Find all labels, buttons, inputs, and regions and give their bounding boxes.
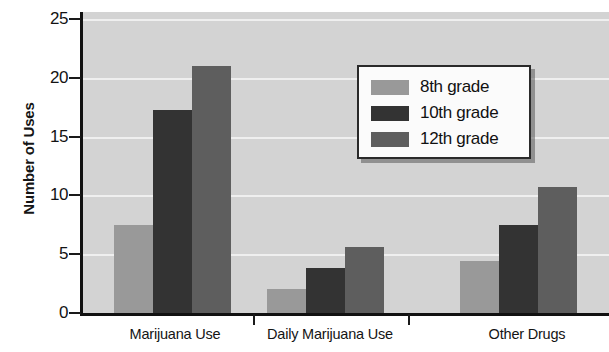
bar <box>499 225 538 313</box>
y-axis-title: Number of Uses <box>20 69 37 249</box>
legend-item: 8th grade <box>359 74 529 100</box>
legend-label: 8th grade <box>420 77 489 97</box>
x-axis-category-label: Marijuana Use <box>130 326 221 342</box>
bar <box>114 225 153 313</box>
legend-item: 10th grade <box>359 100 529 126</box>
y-tick-mark <box>69 18 81 20</box>
x-tick-mark <box>253 314 255 325</box>
y-tick-label: 10 <box>34 185 68 205</box>
y-tick-label: 25 <box>34 9 68 29</box>
bar-chart: 0510152025 Marijuana UseDaily Marijuana … <box>0 0 609 352</box>
x-axis-category-label: Other Drugs <box>489 326 566 342</box>
legend: 8th grade10th grade12th grade <box>357 65 531 159</box>
legend-label: 12th grade <box>420 129 498 149</box>
legend-swatch <box>371 80 409 95</box>
legend-item: 12th grade <box>359 126 529 152</box>
bar <box>153 110 192 313</box>
x-axis-line <box>80 313 609 316</box>
bar <box>192 66 231 313</box>
y-axis-line <box>80 12 83 316</box>
y-tick-mark <box>69 253 81 255</box>
y-tick-label: 20 <box>34 68 68 88</box>
y-tick-label: 0 <box>34 303 68 323</box>
bar <box>306 268 345 313</box>
legend-swatch <box>371 106 409 121</box>
plot-area <box>83 12 609 313</box>
bar <box>267 289 306 313</box>
x-tick-mark <box>408 314 410 325</box>
bar <box>460 261 499 313</box>
y-tick-mark <box>69 194 81 196</box>
bar <box>345 247 384 313</box>
y-tick-label: 5 <box>34 244 68 264</box>
legend-label: 10th grade <box>420 103 498 123</box>
bar <box>538 187 577 313</box>
y-tick-mark <box>69 136 81 138</box>
x-axis-category-label: Daily Marijuana Use <box>267 326 393 342</box>
y-tick-label: 15 <box>34 127 68 147</box>
y-tick-mark <box>69 77 81 79</box>
y-tick-mark <box>69 312 81 314</box>
legend-swatch <box>371 132 409 147</box>
gridline <box>83 19 609 21</box>
